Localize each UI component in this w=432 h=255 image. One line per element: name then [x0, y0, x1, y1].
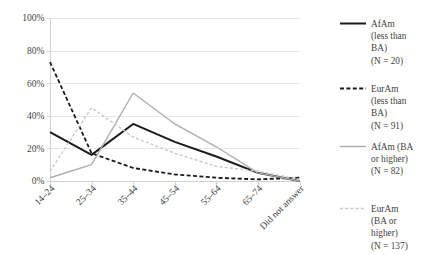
y-axis-tick-label: 100%	[22, 13, 44, 23]
legend-entry-label: (less than	[371, 31, 407, 42]
legend-entry-label: (BA or	[371, 216, 397, 227]
legend-entry-label: AfAm (BA	[371, 142, 413, 153]
y-axis-tick-label: 0%	[32, 176, 45, 186]
legend-entry-label: EurAm	[371, 204, 399, 214]
legend-entry-label: BA)	[371, 108, 387, 119]
legend-entry-label: (N = 137)	[371, 241, 408, 252]
plot-background	[0, 0, 432, 255]
legend-entry-label: EurAm	[371, 84, 399, 94]
legend-entry-label: (N = 82)	[371, 166, 403, 177]
line-chart-figure: 100%80%60%40%20%0% 14–2425–3435–4445–545…	[0, 0, 432, 255]
legend-entry-label: (less than	[371, 96, 407, 107]
y-axis-tick-label: 60%	[27, 79, 45, 89]
legend-entry-label: (N = 91)	[371, 121, 403, 132]
chart-container: 100%80%60%40%20%0% 14–2425–3435–4445–545…	[0, 0, 432, 255]
legend-entry-label: or higher)	[371, 154, 408, 165]
legend-entry-label: higher)	[371, 228, 398, 239]
y-axis-tick-label: 20%	[27, 144, 45, 154]
y-axis-tick-label: 80%	[27, 46, 45, 56]
legend-entry-label: (N = 20)	[371, 56, 403, 67]
legend-entry-label: AfAm	[371, 19, 396, 29]
y-axis-tick-label: 40%	[27, 111, 45, 121]
legend-entry-label: BA)	[371, 43, 387, 54]
